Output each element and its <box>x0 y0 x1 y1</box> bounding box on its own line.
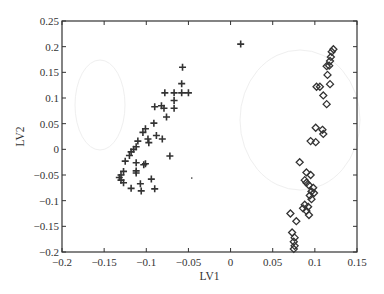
plus-marker <box>171 105 178 112</box>
x-tick-label: 0.15 <box>347 256 367 268</box>
plus-marker <box>171 97 178 104</box>
x-axis: −0.2−0.15−0.1−0.0500.050.10.15 <box>52 21 367 268</box>
plus-marker <box>166 153 173 160</box>
diamond-marker <box>293 218 300 225</box>
plus-marker <box>138 187 145 194</box>
diamond-marker <box>296 159 303 166</box>
y-tick-label: 0 <box>54 143 60 155</box>
x-tick-label: 0.05 <box>263 256 283 268</box>
plus-marker <box>148 176 155 183</box>
plot-area <box>62 21 357 252</box>
plus-marker <box>178 80 185 87</box>
plus-marker <box>145 139 152 146</box>
plus-marker <box>178 89 185 96</box>
y-tick-label: 0.2 <box>45 41 59 53</box>
plus-marker <box>151 185 158 192</box>
plus-marker <box>150 120 157 127</box>
plus-marker <box>161 89 168 96</box>
diamond-marker <box>323 101 330 108</box>
diamond-marker <box>324 71 331 78</box>
plus-marker <box>128 185 135 192</box>
x-tick-label: 0.1 <box>308 256 322 268</box>
diamond-marker <box>312 124 319 131</box>
y-tick-label: 0.1 <box>45 92 59 104</box>
diamond-marker <box>287 210 294 217</box>
stray-dot <box>191 177 193 179</box>
plus-marker <box>237 41 244 48</box>
faint-background-artifacts <box>75 50 360 190</box>
plus-marker <box>163 113 170 120</box>
x-tick-label: −0.15 <box>91 256 117 268</box>
y-tick-label: 0.25 <box>40 15 60 27</box>
x-tick-label: −0.05 <box>176 256 202 268</box>
y-tick-label: 0.05 <box>40 118 60 130</box>
plus-marker <box>153 132 160 139</box>
plus-marker <box>133 159 140 166</box>
plus-marker <box>185 89 192 96</box>
x-axis-label: LV1 <box>199 270 219 282</box>
plus-marker <box>144 136 151 143</box>
plus-marker <box>151 103 158 110</box>
scatter-chart: −0.2−0.15−0.1−0.0500.050.10.15 0.250.20.… <box>0 0 384 294</box>
y-axis-label: LV2 <box>14 126 26 146</box>
y-tick-label: −0.05 <box>34 169 60 181</box>
y-tick-label: −0.1 <box>39 195 59 207</box>
y-tick-label: −0.15 <box>34 220 60 232</box>
plus-marker <box>179 64 186 71</box>
y-tick-label: −0.2 <box>39 246 59 258</box>
plus-marker <box>122 158 129 165</box>
x-tick-label: 0 <box>228 256 234 268</box>
y-tick-label: 0.15 <box>40 66 60 78</box>
plus-marker <box>159 136 166 143</box>
diamond-marker <box>327 81 334 88</box>
plus-marker <box>137 180 144 187</box>
plus-marker <box>171 89 178 96</box>
data-points <box>116 41 337 253</box>
diamond-marker <box>320 92 327 99</box>
x-tick-label: −0.1 <box>136 256 156 268</box>
